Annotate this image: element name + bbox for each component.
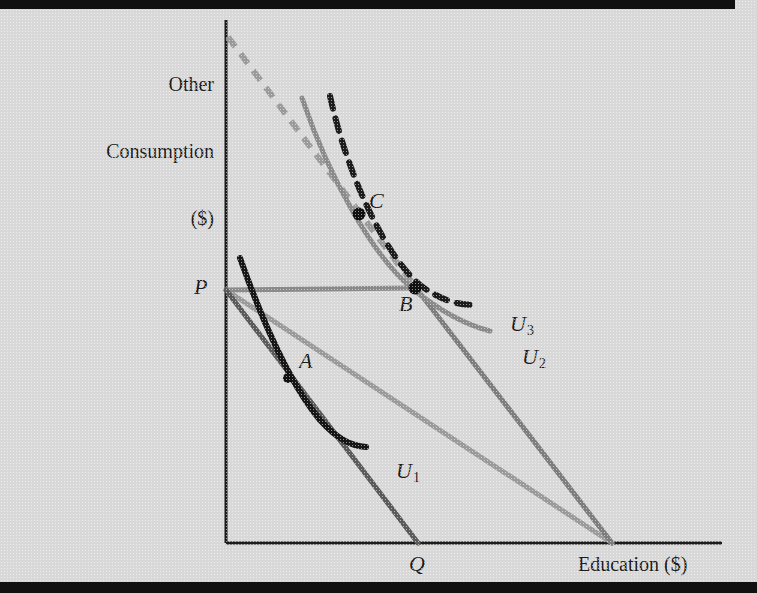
point-label-P: P [194,275,207,300]
point-dot-C [353,208,366,221]
point-label-Q: Q [409,552,425,577]
curve-label-U3-base: U [510,311,526,336]
y-axis-label: Other Consumption ($) [36,28,214,274]
page-bottom-black-bar [0,582,757,593]
point-label-A: A [299,349,312,374]
page-top-black-bar [0,0,735,9]
curve-label-U3: U3 [488,287,533,361]
curve-label-U1: U1 [374,434,419,508]
point-label-C: C [369,189,384,214]
y-axis-label-line-2: Consumption [36,140,214,162]
y-axis-label-line-3: ($) [36,207,214,229]
point-label-B: B [399,292,412,317]
curve-label-U3-sub: 3 [527,323,534,338]
curve-label-U1-sub: 1 [413,470,420,485]
x-axis-label: Education ($) [578,553,687,575]
curve-label-U1-base: U [396,458,412,483]
point-dot-A [283,373,293,383]
indifference-curve-U2 [302,98,490,331]
indifference-curves-group [240,96,490,447]
subsidized-budget-line [226,290,612,543]
y-axis-label-line-1: Other [36,73,214,95]
figure-canvas: Other Consumption ($) Education ($) P A … [0,0,757,593]
curve-label-U2-sub: 2 [539,356,546,371]
